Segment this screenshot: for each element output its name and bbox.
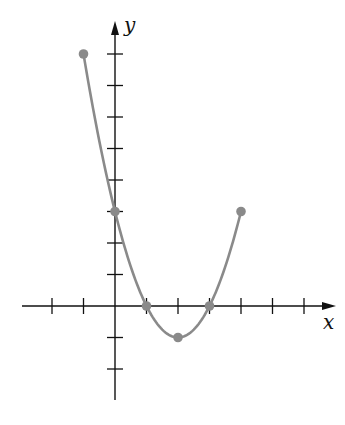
x-axis-arrow-icon xyxy=(322,302,336,310)
axes xyxy=(22,21,336,400)
parabola-line xyxy=(84,54,242,338)
parabola-chart: x y xyxy=(0,0,345,425)
point-marker xyxy=(142,301,152,311)
x-axis-label: x xyxy=(323,310,334,334)
curve xyxy=(84,54,242,338)
point-marker xyxy=(79,49,89,59)
data-points xyxy=(79,49,246,342)
point-marker xyxy=(205,301,215,311)
point-marker xyxy=(173,333,183,343)
y-axis-arrow-icon xyxy=(111,21,119,35)
y-axis-label: y xyxy=(123,13,136,37)
point-marker xyxy=(110,207,120,217)
point-marker xyxy=(236,207,246,217)
